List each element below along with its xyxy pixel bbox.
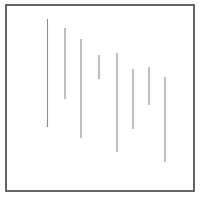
outer-border-rect bbox=[6, 5, 194, 191]
figure-canvas bbox=[0, 0, 201, 197]
figure-root bbox=[0, 0, 201, 197]
